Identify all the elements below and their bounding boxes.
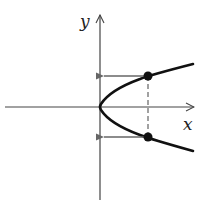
parabola-diagram: y x: [0, 0, 215, 209]
upper-point: [144, 72, 153, 81]
x-axis-label: x: [183, 114, 193, 134]
y-axis-label: y: [79, 11, 90, 31]
lower-point: [144, 133, 153, 142]
